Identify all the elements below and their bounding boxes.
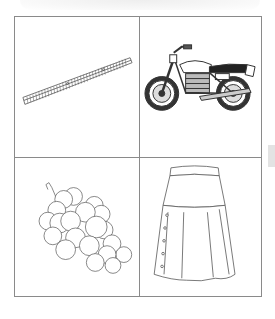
cell-skirt[interactable] xyxy=(140,158,261,296)
top-decorative-edge xyxy=(20,0,260,10)
cell-motorcycle[interactable] xyxy=(140,17,261,158)
side-scroll-tab[interactable] xyxy=(268,145,275,167)
motorcycle-icon xyxy=(140,17,261,157)
picture-grid xyxy=(14,16,262,297)
cell-ruler[interactable] xyxy=(15,17,140,158)
cell-grapes[interactable] xyxy=(15,158,140,296)
ruler-icon xyxy=(15,17,139,157)
grapes-icon xyxy=(15,158,139,296)
skirt-icon xyxy=(140,158,261,296)
